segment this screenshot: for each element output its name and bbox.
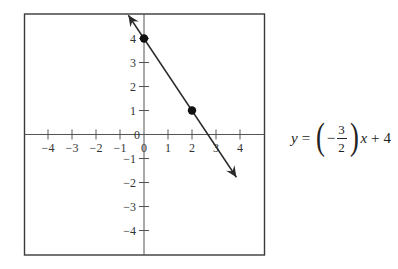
line-equation: y = ( − 3 2 ) x + 4 — [291, 118, 391, 158]
plotted-point — [140, 34, 148, 42]
arrowhead-up-icon — [128, 15, 138, 27]
x-tick-label: 4 — [237, 141, 243, 155]
equation-variable: x — [360, 130, 367, 147]
y-tick-label: −4 — [123, 224, 136, 238]
y-tick-label: −3 — [123, 200, 136, 214]
y-tick-label: 3 — [130, 56, 136, 70]
x-tick-label: −4 — [42, 141, 55, 155]
y-tick-label: 4 — [130, 32, 136, 46]
y-tick-label: −1 — [123, 152, 136, 166]
y-tick-label: −2 — [123, 176, 136, 190]
coordinate-plane: −4−3−2−112340−4−3−2−101234 — [0, 0, 270, 269]
equation-lhs: y — [291, 130, 298, 147]
y-tick-label: 2 — [130, 80, 136, 94]
equation-open-paren: ( — [316, 117, 325, 155]
equation-equals: = — [302, 130, 310, 147]
plotted-point — [188, 106, 196, 114]
arrowhead-down-icon — [226, 165, 236, 177]
slope-fraction: 3 2 — [336, 123, 347, 154]
x-tick-label: 0 — [141, 141, 147, 155]
y-tick-label: 0 — [134, 128, 140, 142]
x-tick-label: 1 — [165, 141, 171, 155]
x-tick-label: 2 — [189, 141, 195, 155]
equation-plus: + — [371, 130, 379, 147]
equation-sign: − — [327, 130, 335, 147]
equation-constant: 4 — [384, 130, 392, 147]
x-tick-label: −2 — [90, 141, 103, 155]
y-tick-label: 1 — [130, 104, 136, 118]
fraction-numerator: 3 — [336, 123, 347, 138]
x-tick-label: −3 — [66, 141, 79, 155]
fraction-denominator: 2 — [338, 139, 345, 154]
equation-close-paren: ) — [350, 117, 359, 155]
